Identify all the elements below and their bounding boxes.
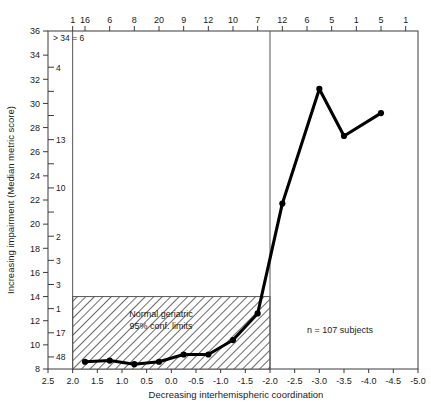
left-count-label: 1 (56, 304, 61, 314)
overflow-count-annotation: > 34 = 6 (53, 33, 84, 43)
top-count-label: 5 (378, 15, 383, 25)
top-count-label: 9 (181, 15, 186, 25)
data-point-marker (205, 351, 211, 357)
y-tick-label: 30 (30, 99, 40, 109)
y-tick-label: 12 (30, 316, 40, 326)
top-count-label: 1 (70, 15, 75, 25)
x-tick-label: 1.5 (91, 376, 104, 386)
top-axis-count-ticks: 11668209121071265151 (70, 15, 408, 31)
x-tick-label: 0.5 (140, 376, 153, 386)
y-tick-label: 18 (30, 244, 40, 254)
y-axis-title: Increasing impairment (Median metric sco… (5, 106, 16, 294)
top-count-label: 1 (354, 15, 359, 25)
y-tick-label: 28 (30, 123, 40, 133)
left-count-label: 13 (56, 135, 66, 145)
data-point-marker (279, 201, 285, 207)
x-tick-label: -4.0 (361, 376, 377, 386)
x-tick-label: -3.0 (312, 376, 328, 386)
top-count-label: 10 (228, 15, 238, 25)
left-count-label: 10 (56, 183, 66, 193)
left-count-label: 2 (56, 232, 61, 242)
y-tick-label: 10 (30, 340, 40, 350)
y-tick-label: 16 (30, 268, 40, 278)
data-point-marker (378, 110, 384, 116)
left-count-label: 3 (56, 280, 61, 290)
top-count-label: 12 (203, 15, 213, 25)
y-tick-label: 20 (30, 219, 40, 229)
y-tick-label: 32 (30, 75, 40, 85)
y-tick-label: 14 (30, 292, 40, 302)
x-tick-label: -0.5 (188, 376, 204, 386)
y-tick-label: 34 (30, 50, 40, 60)
x-tick-label: -1.5 (238, 376, 254, 386)
x-axis-ticks: 2.52.01.51.00.50.0-0.5-1.0-1.5-2.0-2.5-3… (42, 369, 426, 386)
sample-size-annotation: n = 107 subjects (307, 325, 373, 335)
x-tick-label: 0.0 (165, 376, 178, 386)
y-tick-label: 8 (35, 364, 40, 374)
top-count-label: 16 (80, 15, 90, 25)
left-axis-count-ticks: 4131023311748 (48, 63, 66, 363)
x-tick-label: -1.0 (213, 376, 229, 386)
data-point-marker (107, 357, 113, 363)
left-count-label: 17 (56, 328, 66, 338)
x-tick-label: 1.0 (116, 376, 129, 386)
top-count-label: 7 (255, 15, 260, 25)
ci-box-label-line2: 95% conf. limits (129, 321, 193, 331)
data-point-marker (230, 337, 236, 343)
x-axis-title: Decreasing interhemispheric coordination (149, 389, 324, 400)
ci-box-label-line1: Normal geriatric (129, 309, 193, 319)
y-tick-label: 24 (30, 171, 40, 181)
data-point-marker (255, 310, 261, 316)
x-tick-label: 2.0 (66, 376, 79, 386)
top-count-label: 5 (329, 15, 334, 25)
x-tick-label: -5.0 (410, 376, 426, 386)
top-count-label: 6 (107, 15, 112, 25)
x-tick-label: -4.5 (386, 376, 402, 386)
top-count-label: 1 (403, 15, 408, 25)
data-point-marker (316, 86, 322, 92)
data-point-marker (181, 351, 187, 357)
x-tick-label: -2.5 (287, 376, 303, 386)
y-tick-label: 36 (30, 26, 40, 36)
top-count-label: 12 (277, 15, 287, 25)
data-point-marker (156, 359, 162, 365)
x-tick-label: 2.5 (42, 376, 55, 386)
scatter-line-chart: 2.52.01.51.00.50.0-0.5-1.0-1.5-2.0-2.5-3… (0, 0, 431, 407)
data-point-marker (131, 361, 137, 367)
data-point-marker (82, 359, 88, 365)
left-count-label: 4 (56, 63, 61, 73)
top-count-label: 20 (154, 15, 164, 25)
x-tick-label: -2.0 (262, 376, 278, 386)
x-tick-label: -3.5 (336, 376, 352, 386)
left-count-label: 3 (56, 256, 61, 266)
left-count-label: 48 (56, 352, 66, 362)
top-count-label: 6 (304, 15, 309, 25)
data-point-marker (341, 133, 347, 139)
top-count-label: 8 (132, 15, 137, 25)
y-axis-ticks: 81012141618202224262830323436 (30, 26, 48, 374)
y-tick-label: 26 (30, 147, 40, 157)
figure-container: 2.52.01.51.00.50.0-0.5-1.0-1.5-2.0-2.5-3… (0, 0, 431, 407)
y-tick-label: 22 (30, 195, 40, 205)
